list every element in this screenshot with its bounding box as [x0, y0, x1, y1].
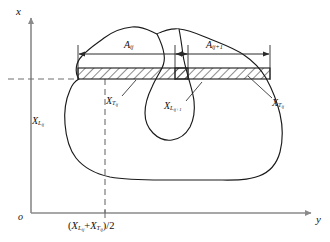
callout-label-xt-ij-left: XTij	[106, 96, 118, 108]
diagram-canvas	[0, 0, 330, 242]
dimension-label-a-ij: Aij	[124, 40, 134, 51]
x-axis-label: x	[16, 6, 21, 17]
callout-label-xt-ij-right: XTij	[272, 98, 284, 110]
hatched-area-a-ij-plus-1	[175, 68, 270, 79]
y-axis-label: y	[316, 214, 321, 225]
callout-label-xl-ij: XLij	[32, 116, 44, 128]
hatched-area-a-ij	[78, 68, 188, 79]
dimension-label-a-ij-plus-1: Aij+1	[206, 40, 223, 51]
origin-label: o	[18, 212, 23, 222]
callout-label-xl-ij-plus-1: XLij+1	[164, 101, 182, 113]
midline-formula-label: (XLij+XTij)/2	[68, 221, 115, 233]
